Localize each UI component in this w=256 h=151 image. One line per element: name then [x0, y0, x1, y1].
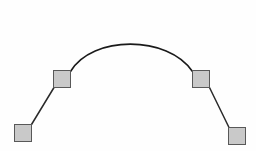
control-handle-anchor-point-start[interactable]	[14, 124, 32, 142]
control-handle-anchor-point-end[interactable]	[228, 127, 246, 145]
left-tangent-line[interactable]	[32, 88, 55, 125]
control-handle-control-point-right[interactable]	[192, 70, 210, 88]
bezier-curve-path[interactable]	[71, 44, 193, 71]
control-handle-control-point-left[interactable]	[53, 70, 71, 88]
tangent-line-group	[32, 88, 230, 128]
right-tangent-line[interactable]	[210, 88, 230, 128]
curve-vector-layer	[0, 0, 256, 151]
bezier-curve-canvas[interactable]	[0, 0, 256, 151]
